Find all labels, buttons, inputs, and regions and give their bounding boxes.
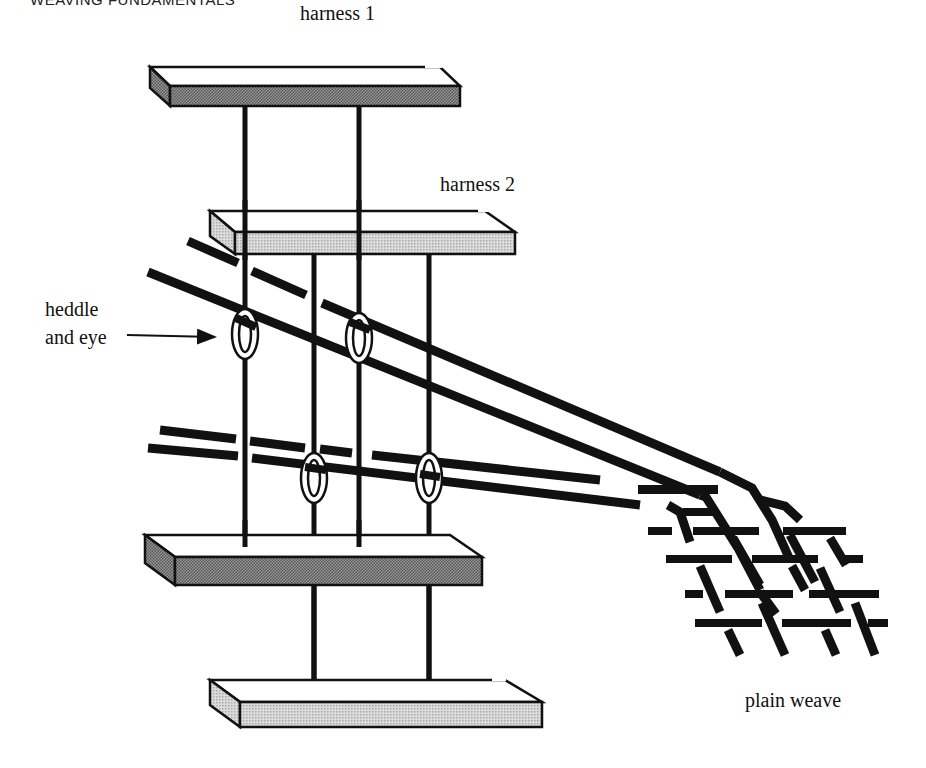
harness-2-bottom-bar — [210, 679, 542, 727]
label-heddle-line2: and eye — [45, 326, 107, 349]
harness-2-top-bar — [210, 210, 515, 254]
label-harness-1: harness 1 — [300, 2, 375, 24]
harness-1-top-bar — [150, 66, 460, 106]
loom-diagram: harness 1 harness 2 heddle and eye plain… — [0, 0, 926, 768]
harness-1-bottom-bar — [145, 535, 482, 585]
label-harness-2: harness 2 — [440, 173, 515, 195]
label-heddle-line1: heddle — [45, 298, 98, 320]
label-plain-weave: plain weave — [745, 689, 841, 712]
heddle-arrow-icon — [127, 335, 215, 337]
